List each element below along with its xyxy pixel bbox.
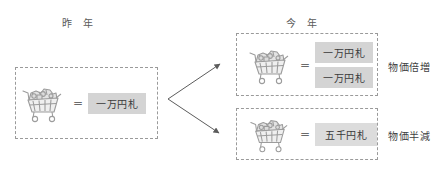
shopping-cart-icon: [16, 81, 68, 125]
column-header-this-year: 今 年: [286, 15, 321, 30]
notes-stack: 一万円札 一万円札: [315, 42, 373, 88]
notes-stack: 五千円札: [315, 123, 377, 146]
banknote-label: 一万円札: [315, 67, 373, 88]
shopping-cart-icon: [243, 113, 295, 155]
arrow-to-price-half: [168, 99, 219, 133]
column-header-last-year: 昨 年: [62, 15, 97, 30]
last-year-panel: = 一万円札: [15, 67, 158, 139]
arrow-to-price-double: [168, 64, 220, 99]
price-half-panel: = 五千円札: [236, 108, 378, 160]
equals-sign: =: [295, 127, 315, 141]
shopping-cart-icon: [243, 43, 295, 87]
equals-sign: =: [295, 58, 315, 72]
banknote-label: 五千円札: [315, 123, 377, 146]
diagram-canvas: 昨 年 今 年: [0, 0, 445, 180]
banknote-label: 一万円札: [315, 42, 373, 63]
caption-price-half: 物価半減: [388, 128, 430, 143]
caption-price-double: 物価倍増: [388, 59, 430, 74]
price-double-panel: = 一万円札 一万円札: [236, 33, 378, 96]
equals-sign: =: [68, 96, 88, 110]
notes-stack: 一万円札: [88, 93, 146, 114]
banknote-label: 一万円札: [88, 93, 146, 114]
